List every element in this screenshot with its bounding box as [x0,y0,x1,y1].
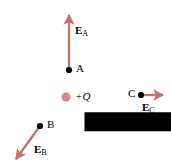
vector-symbol-text-E-C: E [142,101,149,113]
electric-field-diagram: A B C +Q EA EB EC [0,0,171,167]
vector-label-E-B: EB [34,144,47,157]
point-label-A: A [76,63,84,74]
vector-symbol-text-E-B: E [34,143,41,155]
vector-subscript-E-A: A [82,29,88,38]
vector-subscript-E-C: C [149,106,154,115]
vector-label-E-A: EA [75,25,88,38]
point-marker-C [138,92,144,98]
vector-label-E-C: EC [142,102,155,115]
vector-symbol-E-C: E [142,102,149,113]
charge-label: +Q [75,91,90,102]
point-label-C: C [128,88,135,99]
vector-symbol-E-A: E [75,25,82,36]
point-marker-A [66,67,72,73]
point-label-B: B [47,119,54,130]
vector-subscript-E-B: B [41,148,46,157]
vector-symbol-text-E-A: E [75,24,82,36]
point-charge-marker [62,93,71,102]
point-marker-B [37,123,43,129]
vector-symbol-E-B: E [34,144,41,155]
